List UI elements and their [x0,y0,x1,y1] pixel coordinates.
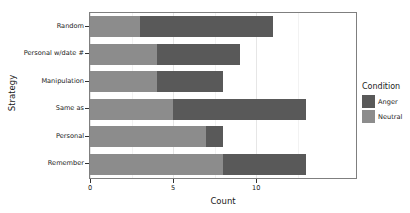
bar-segment-anger [173,99,306,120]
y-axis-tick-mark [85,163,89,164]
bar-row [90,154,356,175]
y-axis-tick-labels: RandomPersonal w/date #ManipulationSame … [20,12,84,179]
bar-series-container [90,13,356,178]
stacked-bar-chart: Strategy RandomPersonal w/date #Manipula… [0,0,410,213]
x-axis-tick-label: 0 [88,184,92,192]
y-axis-tick-label: Random [20,23,84,30]
x-axis-ticks: 0510 [89,179,357,195]
bar-segment-anger [157,71,224,92]
x-axis-title: Count [97,196,349,206]
y-axis-title-text: Strategy [7,74,17,110]
legend-item-anger[interactable]: Anger [362,95,410,108]
bar-segment-neutral [90,44,157,65]
y-axis-tick-mark [85,108,89,109]
legend-swatch-icon [362,110,375,123]
plot-panel [89,12,357,179]
x-axis-tick-mark [173,179,174,183]
legend-item-label: Neutral [378,113,402,121]
bar-segment-anger [157,44,240,65]
legend-title: Condition [362,82,410,91]
bar-segment-neutral [90,16,140,37]
bar-segment-anger [140,16,273,37]
bar-segment-anger [206,126,223,147]
y-axis-tick-label: Manipulation [20,78,84,85]
y-axis-tick-label: Personal [20,133,84,140]
bar-segment-neutral [90,99,173,120]
y-axis-tick-label: Same as [20,105,84,112]
bar-segment-neutral [90,154,223,175]
y-axis-title: Strategy [4,0,20,185]
bar-row [90,16,356,37]
bar-row [90,44,356,65]
y-axis-tick-mark [85,26,89,27]
bar-segment-neutral [90,71,157,92]
bar-row [90,126,356,147]
x-axis-tick-mark [90,179,91,183]
y-axis-tick-mark [85,81,89,82]
legend-swatch-icon [362,95,375,108]
y-axis-tick-mark [85,53,89,54]
x-axis-tick-mark [256,179,257,183]
legend-items: AngerNeutral [362,95,410,123]
x-axis-tick-label: 10 [252,184,260,192]
x-axis-tick-label: 5 [171,184,175,192]
legend: Condition AngerNeutral [362,82,410,125]
bar-segment-anger [223,154,306,175]
bar-row [90,99,356,120]
legend-item-neutral[interactable]: Neutral [362,110,410,123]
bar-segment-neutral [90,126,206,147]
bar-row [90,71,356,92]
y-axis-tick-mark [85,136,89,137]
y-axis-tick-label: Remember [20,160,84,167]
y-axis-tick-label: Personal w/date # [20,50,84,57]
legend-item-label: Anger [378,98,398,106]
